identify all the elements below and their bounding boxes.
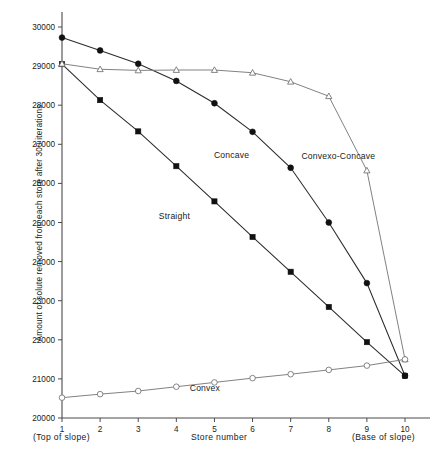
series-line-convexo-concave: [62, 64, 405, 360]
series-line-straight: [62, 64, 405, 376]
data-point-concave: [97, 48, 103, 54]
data-point-straight: [212, 199, 217, 204]
y-tick-label: 22000: [32, 336, 55, 345]
y-tick-label: 26000: [32, 179, 55, 188]
x-axis-right-note: (Base of slope): [352, 432, 415, 442]
data-point-straight: [98, 98, 103, 103]
x-tick-label: 3: [136, 425, 141, 434]
series-label-convex: Convex: [190, 383, 221, 393]
y-tick-label: 28000: [32, 101, 55, 110]
series-line-convex: [62, 359, 405, 397]
x-axis-label: Store number: [191, 432, 247, 442]
y-tick-label: 25000: [32, 219, 55, 228]
data-point-concave: [59, 35, 65, 41]
data-point-straight: [402, 373, 407, 378]
series-label-straight: Straight: [159, 211, 191, 221]
data-point-concave: [173, 78, 179, 84]
data-point-convex: [326, 367, 332, 373]
y-tick-label: 29000: [32, 62, 55, 71]
data-point-convex: [174, 384, 180, 390]
data-point-convex: [97, 391, 103, 397]
y-tick-label: 27000: [32, 140, 55, 149]
data-point-convex: [364, 363, 370, 369]
data-point-concave: [288, 165, 294, 171]
y-axis: 2000021000220002300024000250002600027000…: [32, 12, 62, 423]
data-point-concave: [212, 100, 218, 106]
y-tick-label: 30000: [32, 23, 55, 32]
data-point-concave: [250, 129, 256, 135]
y-tick-label: 23000: [32, 297, 55, 306]
series-label-convexo-concave: Convexo-Concave: [301, 151, 375, 161]
x-tick-label: 4: [174, 425, 179, 434]
y-tick-label: 20000: [32, 414, 55, 423]
data-point-straight: [174, 164, 179, 169]
y-tick-label: 24000: [32, 258, 55, 267]
chart-plot-area: 2000021000220002300024000250002600027000…: [0, 0, 437, 454]
data-point-concave: [364, 280, 370, 286]
series-labels: ConcaveStraightConvexo-ConcaveConvex: [159, 150, 375, 393]
y-tick-label: 21000: [32, 375, 55, 384]
data-point-straight: [326, 304, 331, 309]
data-point-convex: [59, 395, 65, 401]
data-point-straight: [250, 234, 255, 239]
x-tick-label: 2: [98, 425, 103, 434]
x-tick-label: 8: [326, 425, 331, 434]
chart-figure: Amount of solute removed from each store…: [0, 0, 437, 454]
x-tick-label: 6: [250, 425, 255, 434]
data-point-straight: [136, 129, 141, 134]
series-label-concave: Concave: [214, 150, 249, 160]
data-point-straight: [288, 269, 293, 274]
x-tick-label: 7: [288, 425, 293, 434]
data-point-straight: [364, 340, 369, 345]
x-axis-left-note: (Top of slope): [33, 432, 90, 442]
data-point-concave: [135, 61, 141, 67]
series-line-concave: [62, 38, 405, 376]
data-point-convex: [402, 357, 408, 363]
data-point-convexo-concave: [364, 167, 370, 173]
data-point-convex: [135, 388, 141, 394]
series-group: [59, 35, 408, 401]
data-point-convex: [288, 371, 294, 377]
data-point-concave: [326, 220, 332, 226]
data-point-convex: [250, 375, 256, 381]
